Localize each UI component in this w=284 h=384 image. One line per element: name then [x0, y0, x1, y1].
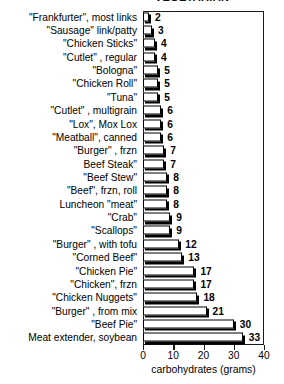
bar	[143, 239, 181, 250]
bar-body	[143, 132, 161, 141]
bar-row: "Chicken Sticks"4	[0, 38, 284, 51]
bar	[143, 279, 196, 290]
bar	[143, 186, 169, 197]
bar-body	[143, 226, 170, 235]
bar	[143, 132, 163, 143]
x-axis-title: carbohydrates (grams)	[151, 364, 256, 375]
bar-category-label: "Crab"	[108, 212, 137, 223]
bar	[143, 106, 163, 117]
bar-body	[143, 66, 158, 75]
chart-title: VEGETARIAN	[112, 0, 272, 3]
bar-category-label: "Corned Beef"	[73, 252, 137, 263]
bar-value-label: 6	[167, 105, 173, 116]
bar-category-label: "Beef Pie"	[91, 319, 137, 330]
bar-row: "Scallops"9	[0, 225, 284, 238]
bar-body	[143, 293, 197, 302]
bar	[143, 253, 184, 264]
bar-value-label: 4	[161, 39, 167, 50]
bar-row: "Beef", frzn, roll8	[0, 185, 284, 198]
bar-value-label: 21	[213, 306, 224, 317]
bar	[143, 146, 166, 157]
bar-body	[143, 199, 167, 208]
bar	[143, 39, 157, 50]
bar-row: "Cutlet" , multigrain6	[0, 105, 284, 118]
bar-row: "Burger" , frzn7	[0, 145, 284, 158]
bar	[143, 266, 196, 277]
bar	[143, 213, 172, 224]
bar-body	[143, 213, 170, 222]
bar-value-label: 4	[161, 52, 167, 63]
bar-body	[143, 39, 155, 48]
bar	[143, 12, 151, 23]
bar-body	[143, 79, 158, 88]
bar-row: "Sausage" link/patty3	[0, 24, 284, 37]
bar-body	[143, 319, 234, 328]
bar-value-label: 9	[176, 212, 182, 223]
bar-value-label: 12	[185, 239, 196, 250]
bar-category-label: "Cutlet" , multigrain	[51, 105, 138, 116]
bar-body	[143, 12, 149, 21]
bar-row: "Chicken", frzn17	[0, 278, 284, 291]
bar-row: "Burger" , from mix21	[0, 305, 284, 318]
bar	[143, 52, 157, 63]
bar-category-label: "Scallops"	[91, 226, 137, 237]
bar-row: Beef Steak"7	[0, 158, 284, 171]
bar-value-label: 30	[240, 319, 251, 330]
bar-category-label: "Burger" , from mix	[52, 306, 137, 317]
bar	[143, 293, 199, 304]
bar-value-label: 2	[155, 12, 161, 23]
bar-value-label: 6	[167, 132, 173, 143]
bar-value-label: 17	[200, 279, 211, 290]
bar-row: "Beef Stew"8	[0, 171, 284, 184]
bar-category-label: Beef Steak"	[84, 159, 137, 170]
bar-body	[143, 279, 194, 288]
carbohydrates-bar-chart: VEGETARIAN "Frankfurter", most links2"Sa…	[0, 0, 284, 384]
x-tick-label: 10	[168, 350, 179, 361]
bar-row: "Corned Beef"13	[0, 251, 284, 264]
bar-body	[143, 253, 182, 262]
bar-value-label: 7	[170, 159, 176, 170]
bar-value-label: 7	[170, 145, 176, 156]
bar-value-label: 17	[200, 266, 211, 277]
bar-value-label: 18	[203, 292, 214, 303]
bar-category-label: "Chicken Sticks"	[63, 39, 137, 50]
bar-row: "Cutlet" , regular4	[0, 51, 284, 64]
bar-category-label: "Tuna"	[107, 92, 137, 103]
bar-body	[143, 119, 161, 128]
bar-category-label: "Bologna"	[92, 65, 137, 76]
bar-category-label: "Sausage" link/patty	[47, 25, 137, 36]
bar-body	[143, 333, 243, 342]
bar-body	[143, 186, 167, 195]
bar-category-label: "Chicken Pie"	[75, 266, 137, 277]
bar-row: "Tuna"5	[0, 91, 284, 104]
x-tick-label: 20	[198, 350, 209, 361]
bar	[143, 226, 172, 237]
bar-value-label: 33	[249, 332, 260, 343]
bar-row: "Chicken Nuggets"18	[0, 292, 284, 305]
bar	[143, 79, 160, 90]
bar-category-label: "Beef", frzn, roll	[67, 186, 137, 197]
bar-value-label: 5	[164, 79, 170, 90]
bar-body	[143, 146, 164, 155]
bar-category-label: "Beef Stew"	[83, 172, 137, 183]
bar-category-label: "Lox", Mox Lox	[69, 119, 137, 130]
bar-value-label: 9	[176, 226, 182, 237]
bar-row: Meat extender, soybean33	[0, 332, 284, 345]
bar-value-label: 6	[167, 119, 173, 130]
bar	[143, 119, 163, 130]
bar-row: "Frankfurter", most links2	[0, 11, 284, 24]
bar-row: "Beef Pie"30	[0, 318, 284, 331]
bar-body	[143, 106, 161, 115]
bar	[143, 333, 245, 344]
bar	[143, 172, 169, 183]
bar-category-label: "Burger" , with tofu	[53, 239, 137, 250]
x-tick-label: 30	[228, 350, 239, 361]
x-axis: carbohydrates (grams) 010203040	[143, 345, 264, 383]
bar-row: "Lox", Mox Lox6	[0, 118, 284, 131]
bar-rows-container: "Frankfurter", most links2"Sausage" link…	[0, 11, 284, 345]
bar-value-label: 3	[158, 25, 164, 36]
bar-body	[143, 52, 155, 61]
bar	[143, 66, 160, 77]
bar-body	[143, 92, 158, 101]
bar-category-label: "Meatball", canned	[52, 132, 137, 143]
